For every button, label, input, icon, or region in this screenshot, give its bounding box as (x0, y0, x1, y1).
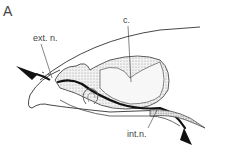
diagram-drawing (0, 0, 234, 162)
